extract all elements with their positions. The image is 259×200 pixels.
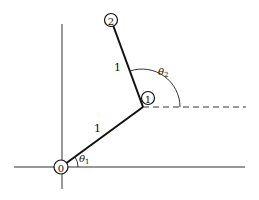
node-1: 1 (142, 92, 155, 105)
theta1-label: θ1 (79, 153, 90, 166)
node-0: 0 (54, 160, 68, 174)
theta2-label: θ2 (158, 66, 169, 79)
node-0-label: 0 (58, 163, 64, 174)
two-link-arm-diagram: 0 1 2 1 1 θ1 θ2 (0, 0, 259, 200)
link-1-length-label: 1 (94, 122, 101, 135)
theta2-arc (130, 69, 180, 107)
link-1 (61, 107, 143, 167)
node-2: 2 (105, 14, 118, 27)
node-2-label: 2 (108, 16, 114, 27)
theta1-arc (75, 157, 78, 167)
link-2-length-label: 1 (114, 61, 121, 74)
node-1-label: 1 (145, 94, 151, 105)
